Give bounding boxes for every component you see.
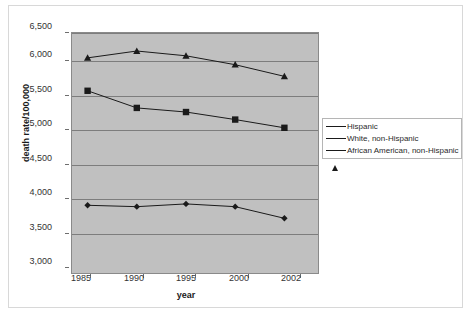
triangle-marker-icon — [325, 145, 347, 157]
y-tick-label-3500: 3,500 — [6, 222, 52, 232]
y-axis-title: death rate/100,000 — [21, 53, 31, 193]
y-tick-label-6500: 6,500 — [6, 21, 52, 31]
y-tick-label-3000: 3,000 — [6, 256, 52, 266]
square-marker-icon — [325, 133, 347, 145]
diamond-marker-icon — [325, 121, 347, 133]
gridline — [72, 199, 318, 200]
chart-screenshot: 6,500 6,000 5,500 5,000 4,500 4,000 3,50… — [0, 0, 472, 323]
x-axis-title: year — [62, 290, 310, 300]
y-tick-mark — [65, 60, 69, 61]
x-tick-label-2002: 2002 — [268, 273, 314, 283]
y-tick-mark — [65, 164, 69, 165]
x-tick-label-1995: 1995 — [163, 273, 209, 283]
x-tick-label-2000: 2000 — [216, 273, 262, 283]
y-tick-mark — [65, 32, 69, 33]
y-tick-mark — [65, 95, 69, 96]
legend-item-hispanic[interactable]: Hispanic — [325, 121, 459, 133]
gridline — [72, 130, 318, 131]
gridline — [72, 61, 318, 62]
gridline — [72, 165, 318, 166]
chart-legend[interactable]: Hispanic White, non-Hispanic African Ame… — [322, 118, 462, 159]
legend-label: White, non-Hispanic — [347, 133, 419, 145]
y-tick-mark — [65, 129, 69, 130]
legend-item-white-non-hispanic[interactable]: White, non-Hispanic — [325, 133, 459, 145]
y-tick-mark — [65, 233, 69, 234]
gridline — [72, 33, 318, 34]
legend-item-african-american-non-hispanic[interactable]: African American, non-Hispanic — [325, 145, 459, 157]
plot-area — [71, 32, 319, 274]
y-tick-mark — [65, 198, 69, 199]
y-tick-mark — [65, 267, 69, 268]
gridline — [72, 234, 318, 235]
legend-label: African American, non-Hispanic — [347, 145, 459, 157]
legend-label: Hispanic — [347, 121, 378, 133]
x-tick-label-1985: 1985 — [58, 273, 104, 283]
gridline — [72, 96, 318, 97]
x-tick-label-1990: 1990 — [111, 273, 157, 283]
